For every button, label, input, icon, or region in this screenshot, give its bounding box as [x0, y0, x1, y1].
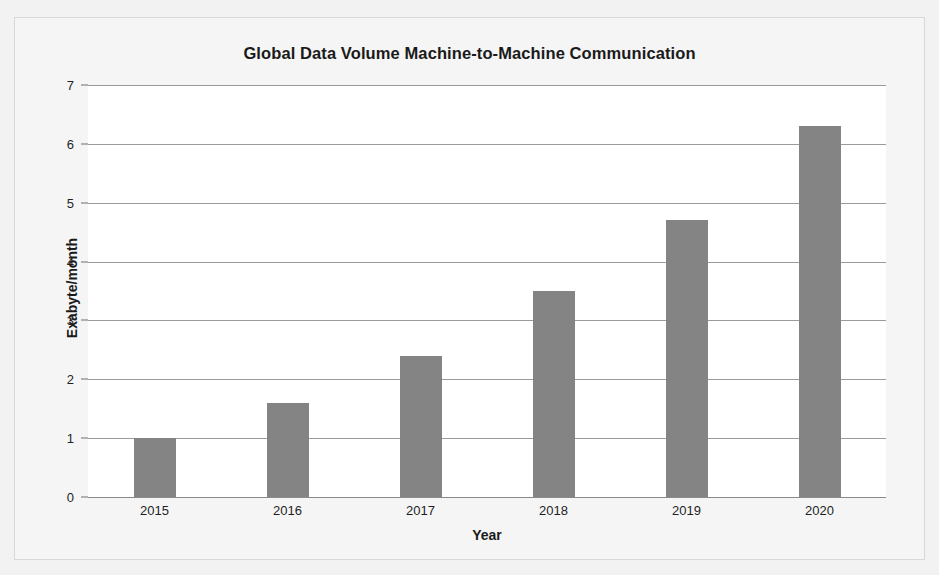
chart-title: Global Data Volume Machine-to-Machine Co… — [0, 44, 939, 63]
bar-slot-2018 — [487, 85, 620, 497]
y-tick-mark-5 — [81, 202, 88, 203]
x-tick-label-2020: 2020 — [753, 497, 886, 523]
bar-chart-figure: Global Data Volume Machine-to-Machine Co… — [0, 0, 939, 575]
y-tick-label-5: 5 — [67, 195, 74, 210]
x-tick-label-2015: 2015 — [88, 497, 221, 523]
x-tick-label-2018: 2018 — [487, 497, 620, 523]
bar-slot-2017 — [354, 85, 487, 497]
y-tick-label-3: 3 — [67, 313, 74, 328]
x-tick-label-2016: 2016 — [221, 497, 354, 523]
y-tick-mark-0 — [81, 497, 88, 498]
y-tick-mark-3 — [81, 320, 88, 321]
bar-slot-2019 — [620, 85, 753, 497]
bar-2019[interactable] — [666, 220, 708, 497]
chart-screenshot: Global Data Volume Machine-to-Machine Co… — [0, 0, 939, 575]
bar-2016[interactable] — [267, 403, 309, 497]
y-tick-mark-6 — [81, 143, 88, 144]
x-axis-title: Year — [88, 527, 886, 543]
bar-slot-2015 — [88, 85, 221, 497]
y-tick-label-2: 2 — [67, 372, 74, 387]
bar-slot-2016 — [221, 85, 354, 497]
plot-area — [88, 85, 886, 497]
bar-series — [88, 85, 886, 497]
x-tick-label-2019: 2019 — [620, 497, 753, 523]
y-tick-label-7: 7 — [67, 78, 74, 93]
y-tick-label-6: 6 — [67, 136, 74, 151]
y-tick-mark-4 — [81, 261, 88, 262]
y-tick-label-4: 4 — [67, 254, 74, 269]
y-axis: Exabyte/month 76543210 — [0, 0, 88, 575]
y-tick-mark-7 — [81, 85, 88, 86]
y-tick-mark-2 — [81, 379, 88, 380]
bar-slot-2020 — [753, 85, 886, 497]
y-tick-label-1: 1 — [67, 431, 74, 446]
y-tick-label-0: 0 — [67, 490, 74, 505]
x-axis: 201520162017201820192020 — [88, 497, 886, 523]
bar-2020[interactable] — [799, 126, 841, 497]
bar-2018[interactable] — [533, 291, 575, 497]
bar-2015[interactable] — [134, 438, 176, 497]
y-tick-mark-1 — [81, 438, 88, 439]
x-tick-label-2017: 2017 — [354, 497, 487, 523]
bar-2017[interactable] — [400, 356, 442, 497]
